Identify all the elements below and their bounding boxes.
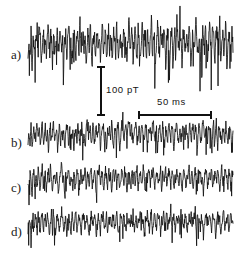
trace-c (28, 162, 233, 205)
trace-plot-area (0, 0, 244, 259)
trace-b (28, 112, 233, 160)
vertical-scalebar-label: 100 pT (106, 85, 139, 95)
figure-panel: a) b) c) d) 100 pT 50 ms (0, 0, 244, 259)
trace-label-d: d) (11, 225, 22, 238)
trace-d (28, 204, 233, 248)
trace-label-a: a) (11, 48, 21, 61)
trace-label-c: c) (11, 181, 21, 194)
horizontal-scalebar-label: 50 ms (157, 97, 186, 107)
trace-label-b: b) (11, 136, 22, 149)
trace-a (28, 6, 233, 91)
